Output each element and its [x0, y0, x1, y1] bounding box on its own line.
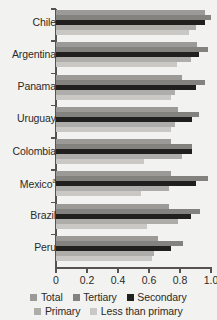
legend-label-less-than-primary: Less than primary	[101, 305, 183, 317]
y-axis-label-peru: Peru	[34, 241, 56, 253]
legend-item-primary[interactable]: Primary	[34, 305, 80, 317]
legend-item-less-than-primary[interactable]: Less than primary	[90, 305, 182, 317]
legend-label-tertiary: Tertiary	[83, 291, 117, 303]
horizontal-bar-chart: TotalTertiarySecondaryPrimaryLess than p…	[0, 0, 217, 320]
x-axis-line	[55, 267, 212, 269]
x-axis-tick-1.0	[210, 268, 212, 273]
bar-colombia-less-than-primary	[56, 159, 144, 164]
y-axis-tick-panama	[51, 73, 56, 75]
y-axis-tick-mexico	[51, 169, 56, 171]
x-axis-label-0: 0	[53, 274, 59, 286]
x-axis-label-0.4: 0.4	[111, 274, 126, 286]
bar-group-brazil	[56, 204, 211, 231]
x-axis-tick-0.8	[179, 268, 181, 273]
legend-item-tertiary[interactable]: Tertiary	[73, 291, 117, 303]
bar-group-chile	[56, 10, 211, 37]
legend-label-secondary: Secondary	[137, 291, 186, 303]
y-axis-tick-chile	[51, 8, 56, 10]
bar-peru-less-than-primary	[56, 256, 152, 261]
y-axis-label-mexico: Mexicoa	[20, 177, 56, 190]
legend-item-total[interactable]: Total	[30, 291, 62, 303]
x-axis-tick-0.2	[86, 268, 88, 273]
legend-label-primary: Primary	[45, 305, 80, 317]
x-axis-tick-0.4	[117, 268, 119, 273]
y-axis-tick-argentina	[51, 40, 56, 42]
x-axis-label-1.0: 1.0	[204, 274, 217, 286]
y-axis-label-colombia: Colombia	[12, 145, 56, 157]
x-axis-label-0.8: 0.8	[173, 274, 188, 286]
bar-uruguay-less-than-primary	[56, 127, 171, 132]
bar-group-argentina	[56, 42, 211, 69]
plot-area	[56, 9, 211, 267]
legend-swatch-secondary	[127, 294, 134, 301]
y-axis-label-uruguay: Uruguay	[17, 112, 56, 124]
y-axis-label-panama: Panama	[17, 80, 56, 92]
bar-argentina-less-than-primary	[56, 62, 177, 67]
bar-brazil-less-than-primary	[56, 224, 147, 229]
x-axis-label-0.2: 0.2	[80, 274, 95, 286]
legend-row-1: TotalTertiarySecondary	[0, 290, 217, 304]
bar-group-uruguay	[56, 107, 211, 134]
legend-swatch-total	[30, 294, 37, 301]
bar-panama-less-than-primary	[56, 95, 171, 100]
y-axis-tick-brazil	[51, 202, 56, 204]
legend-item-secondary[interactable]: Secondary	[127, 291, 187, 303]
y-axis-tick-uruguay	[51, 105, 56, 107]
chart-legend: TotalTertiarySecondaryPrimaryLess than p…	[0, 290, 217, 318]
legend-row-2: PrimaryLess than primary	[0, 304, 217, 318]
bar-chile-less-than-primary	[56, 30, 189, 35]
y-axis-tick-colombia	[51, 137, 56, 139]
legend-swatch-less-than-primary	[90, 308, 97, 315]
bar-group-peru	[56, 236, 211, 263]
x-axis-tick-0	[55, 268, 57, 273]
bar-group-colombia	[56, 139, 211, 166]
x-axis-tick-0.6	[148, 268, 150, 273]
y-axis-tick-peru	[51, 234, 56, 236]
legend-swatch-tertiary	[73, 294, 80, 301]
bar-mexico-less-than-primary	[56, 191, 141, 196]
bar-group-panama	[56, 75, 211, 102]
bar-group-mexico	[56, 171, 211, 198]
legend-label-total: Total	[41, 291, 63, 303]
y-axis-label-chile: Chile	[33, 16, 56, 28]
legend-swatch-primary	[34, 308, 41, 315]
y-axis-label-brazil: Brazil	[30, 209, 56, 221]
y-axis-label-argentina: Argentina	[12, 48, 56, 60]
x-axis-label-0.6: 0.6	[142, 274, 157, 286]
